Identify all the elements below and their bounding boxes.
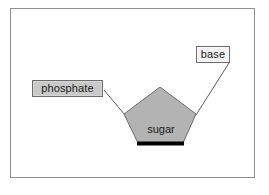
label-base[interactable]: base [196, 46, 230, 63]
connector-base-to-sugar [196, 63, 229, 115]
label-phosphate-text: phosphate [41, 83, 93, 94]
label-sugar: sugar [137, 124, 185, 135]
label-sugar-text: sugar [147, 123, 175, 135]
diagram-svg [0, 0, 269, 195]
diagram-canvas: phosphate base sugar [0, 0, 269, 195]
label-base-text: base [201, 49, 225, 60]
connector-phosphate-to-sugar [104, 90, 125, 115]
label-phosphate[interactable]: phosphate [32, 80, 103, 97]
